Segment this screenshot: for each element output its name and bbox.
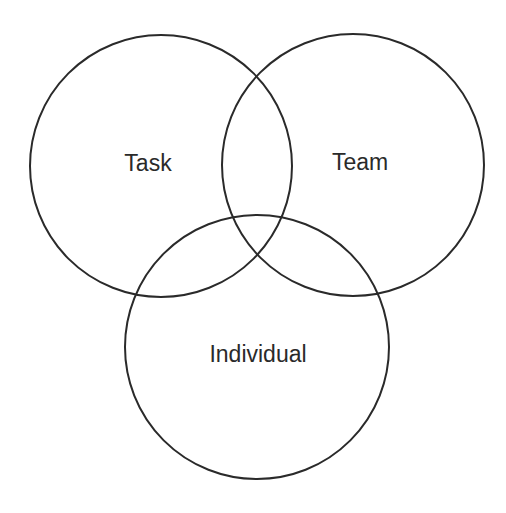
individual-label: Individual [209,341,306,367]
task-label: Task [124,150,172,176]
team-label: Team [332,149,388,175]
venn-diagram: Task Team Individual [0,0,506,513]
